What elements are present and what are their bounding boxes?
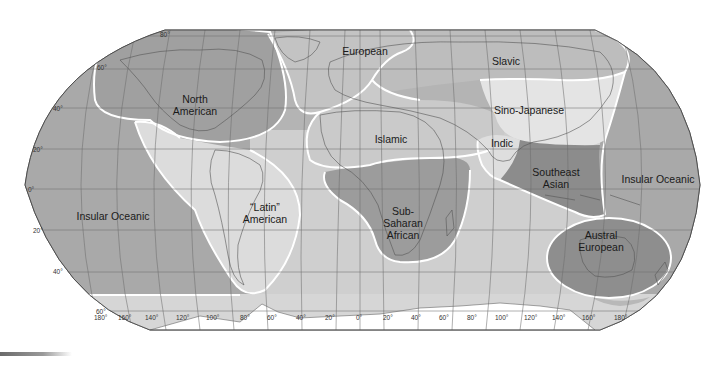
label-southeast-asian-line1: Southeast: [532, 166, 579, 178]
lat-label-60n: 60°: [97, 64, 107, 71]
lon-label-80e: 80°: [467, 314, 477, 321]
lat-label-40n: 40°: [53, 105, 63, 112]
label-sub-saharan-line3: African: [387, 229, 420, 241]
lon-label-140e: 140°: [552, 314, 566, 321]
lat-label-20n: 20°: [33, 146, 43, 153]
lon-label-120e: 120°: [524, 314, 538, 321]
lon-label-0: 0°: [356, 314, 363, 321]
lon-label-180e: 180°: [614, 314, 628, 321]
lon-label-40e: 40°: [411, 314, 421, 321]
label-slavic: Slavic: [492, 55, 520, 67]
label-latin-american-line1: “Latin”: [250, 201, 280, 213]
label-sub-saharan-line1: Sub-: [392, 205, 415, 217]
lon-label-60e: 60°: [439, 314, 449, 321]
label-latin-american-line2: American: [243, 213, 288, 225]
lon-label-100e: 100°: [495, 314, 509, 321]
lon-label-40w: 40°: [296, 314, 306, 321]
label-indic: Indic: [491, 137, 513, 149]
lat-label-0: 0°: [28, 186, 35, 193]
lon-label-140w: 140°: [145, 314, 159, 321]
lat-label-40s: 40°: [53, 268, 63, 275]
lon-label-20w: 20°: [325, 314, 335, 321]
lon-label-80w: 80°: [240, 314, 250, 321]
lat-label-80n: 80°: [160, 31, 170, 38]
label-north-american-line2: American: [173, 105, 218, 117]
label-islamic: Islamic: [375, 133, 408, 145]
lat-label-20s: 20°: [33, 227, 43, 234]
label-insular-oceanic-west: Insular Oceanic: [77, 210, 150, 222]
lon-label-160e: 160°: [582, 314, 596, 321]
label-european: European: [342, 45, 388, 57]
lon-label-160w: 160°: [118, 314, 132, 321]
label-austral-european-line2: European: [578, 241, 624, 253]
label-austral-european-line1: Austral: [585, 229, 618, 241]
world-culture-realms-map: 80° 60° 40° 20° 0° 20° 40° 60° 180° 160°…: [0, 0, 715, 366]
label-north-american-line1: North: [182, 93, 208, 105]
label-southeast-asian-line2: Asian: [543, 178, 569, 190]
label-sub-saharan-line2: Saharan: [383, 217, 423, 229]
lon-label-120w: 120°: [176, 314, 190, 321]
label-sino-japanese: Sino-Japanese: [494, 104, 564, 116]
lon-label-100w: 100°: [206, 314, 220, 321]
lon-label-20e: 20°: [383, 314, 393, 321]
lon-label-60w: 60°: [267, 314, 277, 321]
label-insular-oceanic-east: Insular Oceanic: [622, 173, 695, 185]
lon-label-180w: 180°: [94, 314, 108, 321]
page-corner-gradient-bar: [0, 352, 72, 356]
